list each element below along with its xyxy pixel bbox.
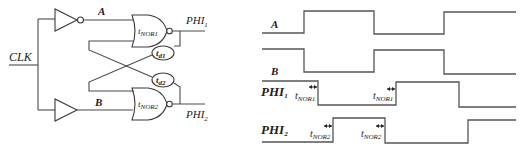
circuit-schematic: CLK A B tNOR1 PHI1 tNOR2 PHI2 td1 (9, 5, 208, 123)
double-arrow-icon (387, 87, 395, 91)
node-b-label: B (94, 96, 102, 108)
tnor2-annotation-1: tNOR2 (310, 128, 331, 141)
node-a-label: A (97, 5, 105, 17)
nor1-bubble (167, 28, 173, 34)
signal-phi2-label: PHI2 (261, 122, 288, 138)
inverter-bubble (78, 17, 84, 23)
clk-label: CLK (9, 50, 33, 64)
signal-a-label: A (270, 18, 278, 30)
signal-b-label: B (270, 65, 278, 77)
tnor1-annotation-1: tNOR1 (295, 90, 315, 103)
double-arrow-icon (376, 124, 384, 128)
phi1-label: PHI1 (185, 14, 208, 29)
tnor2-annotation-2: tNOR2 (361, 128, 382, 141)
tnor1-annotation-2: tNOR1 (373, 90, 393, 103)
signal-phi1-label: PHI1 (261, 84, 288, 100)
timing-diagram: A B PHI1 tNOR1 tNOR1 PHI2 tNOR2 (261, 11, 516, 143)
phi2-label: PHI2 (185, 108, 208, 123)
diagram-canvas: CLK A B tNOR1 PHI1 tNOR2 PHI2 td1 (0, 0, 523, 149)
double-arrow-icon (309, 85, 317, 89)
waveform-phi2 (262, 118, 516, 143)
waveform-phi1 (262, 81, 516, 107)
buffer-icon (55, 99, 77, 121)
double-arrow-icon (324, 124, 332, 128)
nor2-bubble (167, 101, 173, 107)
waveform-a (262, 11, 516, 34)
waveform-b (262, 49, 516, 74)
inverter-icon (55, 9, 77, 31)
